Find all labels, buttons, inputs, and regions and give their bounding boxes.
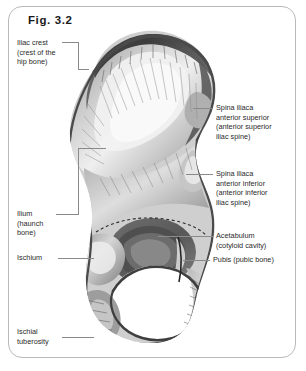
label-ischium: Ischium bbox=[17, 253, 61, 263]
label-iliac-crest: Iliac crest (crest of the hip bone) bbox=[17, 38, 77, 67]
label-pubis: Pubis (pubic bone) bbox=[213, 255, 301, 265]
leader-iliac-crest-vertical bbox=[78, 42, 79, 70]
label-ischial-tuberosity: Ischial tuberosity bbox=[17, 327, 65, 346]
leader-pubis bbox=[183, 260, 210, 261]
leader-aiis bbox=[186, 174, 213, 175]
leader-iliac-crest-tip bbox=[78, 69, 89, 70]
leader-ischium bbox=[58, 258, 94, 259]
figure-panel: Fig. 3.2 bbox=[0, 0, 306, 371]
label-ilium: Ilium (haunch bone) bbox=[17, 209, 57, 238]
leader-ilium-top bbox=[78, 148, 106, 149]
leader-ilium-text bbox=[56, 214, 79, 215]
leader-ilium-vertical bbox=[78, 148, 79, 214]
label-acetabulum: Acetabulum (cotyloid cavity) bbox=[216, 231, 298, 250]
leader-acetabulum bbox=[158, 236, 213, 237]
label-spina-iliaca-anterior-inferior: Spina iliaca anterior inferior (anterior… bbox=[216, 169, 298, 207]
label-spina-iliaca-anterior-superior: Spina iliaca anterior superior (anterior… bbox=[216, 103, 298, 141]
figure-title: Fig. 3.2 bbox=[28, 14, 72, 26]
leader-ischial-tuberosity bbox=[62, 337, 94, 338]
leader-asis bbox=[193, 108, 213, 109]
